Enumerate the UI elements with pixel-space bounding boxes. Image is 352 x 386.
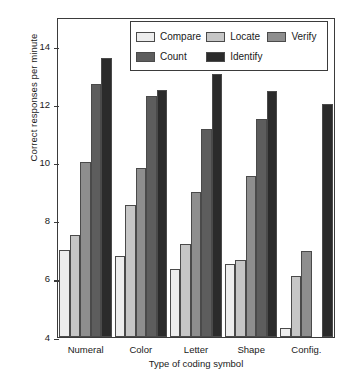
legend-label-identify: Identify xyxy=(230,46,267,66)
bar-count xyxy=(91,84,102,337)
y-tick-label: 4 xyxy=(20,332,50,343)
legend-label-locate: Locate xyxy=(230,26,267,46)
bar-compare xyxy=(280,328,291,337)
x-tick-label: Color xyxy=(129,344,152,355)
legend-row: CountIdentify xyxy=(136,46,321,66)
bar-identify xyxy=(157,90,168,337)
bar-wrap xyxy=(59,19,112,337)
bar-count xyxy=(256,119,267,337)
bar-verify xyxy=(136,168,147,337)
x-axis-title: Type of coding symbol xyxy=(57,358,335,369)
legend-swatch-cell xyxy=(267,26,291,46)
y-tick-label: 6 xyxy=(20,273,50,284)
x-tick-label: Shape xyxy=(237,344,264,355)
bar-compare xyxy=(170,269,181,337)
bar-identify xyxy=(267,91,278,337)
bar-count xyxy=(146,96,157,337)
bar-identify xyxy=(101,58,112,337)
bar-verify xyxy=(246,176,257,337)
legend-swatch-cell xyxy=(136,46,160,66)
legend-swatch-count xyxy=(136,52,155,62)
legend-label-compare: Compare xyxy=(160,26,206,46)
y-tick-mark xyxy=(54,339,59,340)
chart-legend: CompareLocateVerifyCountIdentify xyxy=(130,21,328,71)
legend-swatch-compare xyxy=(136,32,155,42)
bar-verify xyxy=(191,192,202,337)
bar-locate xyxy=(291,276,302,337)
y-tick-label: 14 xyxy=(20,41,50,52)
bar-group-numeral: Numeral xyxy=(58,19,113,337)
y-tick-label: 10 xyxy=(20,157,50,168)
legend-table: CompareLocateVerifyCountIdentify xyxy=(136,26,321,66)
bar-verify xyxy=(80,162,91,337)
bar-identify xyxy=(212,74,223,337)
bar-compare xyxy=(59,250,70,337)
bar-identify xyxy=(322,104,333,337)
legend-swatch-cell xyxy=(206,26,230,46)
y-tick-label: 8 xyxy=(20,215,50,226)
legend-swatch-identify xyxy=(206,52,225,62)
legend-swatch-cell xyxy=(206,46,230,66)
bar-locate xyxy=(125,205,136,337)
bar-compare xyxy=(115,256,126,337)
legend-swatch-verify xyxy=(267,32,286,42)
bar-count xyxy=(201,129,212,337)
bar-verify xyxy=(301,251,312,337)
legend-swatch-locate xyxy=(206,32,225,42)
legend-label-count: Count xyxy=(160,46,206,66)
bar-compare xyxy=(225,264,236,337)
x-tick-label: Numeral xyxy=(68,344,104,355)
legend-label-verify: Verify xyxy=(291,26,321,46)
bar-locate xyxy=(70,235,81,337)
legend-spacer xyxy=(267,46,321,66)
legend-swatch-cell xyxy=(136,26,160,46)
x-tick-label: Config. xyxy=(291,344,321,355)
bar-locate xyxy=(235,260,246,337)
legend-row: CompareLocateVerify xyxy=(136,26,321,46)
y-tick-label: 12 xyxy=(20,99,50,110)
x-tick-label: Letter xyxy=(184,344,208,355)
bar-locate xyxy=(180,244,191,337)
bar-chart-figure: Correct responses per minute 468101214 N… xyxy=(0,0,352,386)
